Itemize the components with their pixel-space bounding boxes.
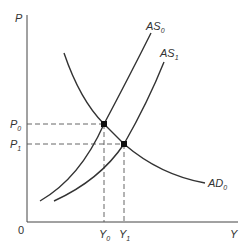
origin-label: 0 xyxy=(18,224,24,236)
ad0-curve xyxy=(64,53,205,183)
y0-label: Y0 xyxy=(99,228,110,242)
p1-label: P1 xyxy=(10,138,21,152)
y1-label: Y1 xyxy=(119,228,130,242)
p0-label: P0 xyxy=(10,118,21,132)
y-axis-label: P xyxy=(15,12,23,24)
as1-label: AS1 xyxy=(159,47,179,61)
x-axis-label: Y xyxy=(230,228,238,240)
ad0-label: AD0 xyxy=(207,177,227,191)
as0-label: AS0 xyxy=(145,20,165,34)
as1-curve xyxy=(54,62,164,201)
as-ad-diagram: P Y 0 AS0 AS1 AD0 P0 P1 Y0 Y1 xyxy=(0,0,250,248)
equilibrium-point-e0 xyxy=(101,121,107,127)
equilibrium-point-e1 xyxy=(121,141,127,147)
